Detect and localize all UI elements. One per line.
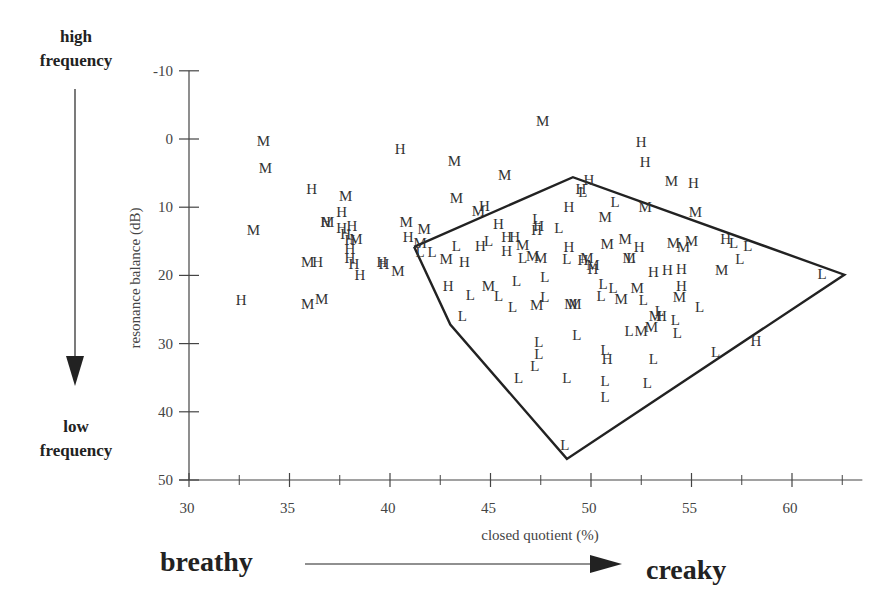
data-point-h: H bbox=[354, 267, 365, 283]
x-tick-label: 30 bbox=[180, 500, 195, 516]
data-points: HHHHHHHHHHHHHHHHHHHHHHHHHHHHHHHHHHHHHHHH… bbox=[236, 113, 827, 452]
data-point-m: M bbox=[715, 262, 728, 278]
x-tick-label: 35 bbox=[280, 500, 295, 516]
polygon-hull bbox=[414, 177, 844, 459]
data-point-h: H bbox=[459, 254, 470, 270]
data-point-m: M bbox=[665, 173, 678, 189]
data-point-h: H bbox=[306, 181, 317, 197]
data-point-h: H bbox=[676, 261, 687, 277]
data-point-l: L bbox=[609, 280, 618, 296]
data-point-h: H bbox=[636, 134, 647, 150]
data-point-l: L bbox=[600, 342, 609, 358]
data-point-l: L bbox=[562, 370, 571, 386]
data-point-l: L bbox=[572, 327, 581, 343]
data-point-l: L bbox=[596, 288, 605, 304]
data-point-l: L bbox=[673, 325, 682, 341]
data-point-l: L bbox=[743, 238, 752, 254]
data-point-m: M bbox=[315, 291, 328, 307]
data-point-l: L bbox=[655, 303, 664, 319]
data-point-m: M bbox=[391, 263, 404, 279]
data-point-l: L bbox=[625, 323, 634, 339]
data-point-l: L bbox=[466, 287, 475, 303]
data-point-m: M bbox=[598, 209, 611, 225]
data-point-m: M bbox=[301, 296, 314, 312]
data-point-m: M bbox=[301, 254, 314, 270]
data-point-m: M bbox=[321, 214, 334, 230]
data-point-l: L bbox=[639, 292, 648, 308]
data-point-h: H bbox=[501, 243, 512, 259]
data-point-l: L bbox=[514, 370, 523, 386]
y-tick-label: 40 bbox=[158, 404, 173, 420]
data-point-m: M bbox=[448, 153, 461, 169]
data-point-l: L bbox=[458, 308, 467, 324]
data-point-h: H bbox=[648, 264, 659, 280]
data-point-l: L bbox=[518, 250, 527, 266]
data-point-h: H bbox=[563, 199, 574, 215]
data-point-l: L bbox=[540, 269, 549, 285]
data-point-l: L bbox=[484, 233, 493, 249]
y-axis-title: resonance balance (dB) bbox=[127, 208, 144, 349]
data-point-l: L bbox=[452, 238, 461, 254]
data-point-l: L bbox=[627, 250, 636, 266]
data-point-m: M bbox=[618, 231, 631, 247]
breathy-creaky-arrow-head-icon bbox=[590, 555, 622, 573]
data-point-l: L bbox=[643, 375, 652, 391]
data-point-l: L bbox=[532, 211, 541, 227]
data-point-h: H bbox=[750, 333, 761, 349]
y-tick-label: 0 bbox=[166, 131, 174, 147]
data-point-l: L bbox=[416, 244, 425, 260]
data-point-m: M bbox=[685, 233, 698, 249]
x-tick-label: 55 bbox=[682, 500, 697, 516]
y-tick-label: 50 bbox=[158, 472, 173, 488]
data-point-l: L bbox=[649, 351, 658, 367]
data-point-m: M bbox=[635, 323, 648, 339]
data-point-m: M bbox=[673, 289, 686, 305]
data-point-l: L bbox=[818, 266, 827, 282]
data-point-h: H bbox=[377, 254, 388, 270]
data-point-l: L bbox=[729, 235, 738, 251]
x-tick-label: 45 bbox=[481, 500, 496, 516]
hull-outline bbox=[414, 177, 844, 459]
y-tick-label: 10 bbox=[158, 199, 173, 215]
frequency-arrow-head-icon bbox=[66, 356, 84, 386]
data-point-m: M bbox=[399, 214, 412, 230]
x-tick-label: 50 bbox=[582, 500, 597, 516]
data-point-m: M bbox=[339, 188, 352, 204]
data-point-m: M bbox=[586, 257, 599, 273]
y-tick-label: 20 bbox=[158, 267, 173, 283]
data-point-m: M bbox=[259, 160, 272, 176]
data-point-l: L bbox=[494, 288, 503, 304]
data-point-l: L bbox=[560, 437, 569, 453]
data-point-l: L bbox=[534, 346, 543, 362]
data-point-h: H bbox=[403, 229, 414, 245]
data-point-m: M bbox=[568, 296, 581, 312]
y-tick-label: 30 bbox=[158, 336, 173, 352]
data-point-m: M bbox=[639, 199, 652, 215]
x-tick-label: 40 bbox=[381, 500, 396, 516]
x-tick-label: 60 bbox=[783, 500, 798, 516]
data-point-l: L bbox=[428, 244, 437, 260]
data-point-m: M bbox=[247, 222, 260, 238]
data-point-l: L bbox=[600, 373, 609, 389]
data-point-m: M bbox=[257, 133, 270, 149]
data-point-m: M bbox=[349, 231, 362, 247]
scatter-chart: -100102030405030354045505560 HHHHHHHHHHH… bbox=[0, 0, 895, 610]
data-point-l: L bbox=[611, 194, 620, 210]
data-point-l: L bbox=[695, 299, 704, 315]
x-axis-title: closed quotient (%) bbox=[481, 527, 598, 544]
data-point-l: L bbox=[711, 344, 720, 360]
data-point-m: M bbox=[450, 190, 463, 206]
data-point-l: L bbox=[554, 220, 563, 236]
data-point-m: M bbox=[472, 203, 485, 219]
axes: -100102030405030354045505560 bbox=[153, 63, 862, 516]
data-point-l: L bbox=[562, 251, 571, 267]
data-point-m: M bbox=[600, 236, 613, 252]
data-point-m: M bbox=[534, 250, 547, 266]
data-point-l: L bbox=[600, 389, 609, 405]
data-point-m: M bbox=[498, 167, 511, 183]
data-point-l: L bbox=[578, 184, 587, 200]
data-point-l: L bbox=[540, 289, 549, 305]
data-point-h: H bbox=[236, 292, 247, 308]
data-point-h: H bbox=[662, 262, 673, 278]
data-point-m: M bbox=[689, 204, 702, 220]
